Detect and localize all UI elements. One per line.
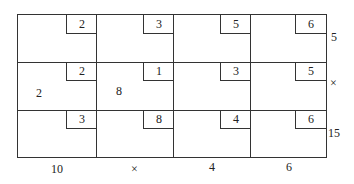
cost-box: 3 (143, 15, 174, 34)
cost-box: 6 (295, 110, 326, 129)
cell-r3-c3: 4 (173, 110, 251, 158)
cell-r1-c1: 2 (18, 15, 97, 63)
demand-col-1: 10 (51, 162, 63, 177)
cell-r3-c4: 6 (250, 110, 326, 158)
cell-r2-c2: 1 8 (96, 62, 174, 111)
demand-col-4: 6 (286, 160, 292, 175)
cell-r2-c4: 5 (250, 62, 326, 111)
supply-row-2: × (330, 76, 337, 91)
allocation-value: 2 (36, 86, 42, 101)
cost-box: 6 (295, 15, 326, 34)
cost-box: 5 (220, 15, 251, 34)
supply-row-1: 5 (331, 30, 337, 45)
demand-col-3: 4 (209, 160, 215, 175)
cell-r3-c1: 3 (18, 110, 97, 158)
cost-box: 3 (66, 110, 97, 129)
cost-box: 2 (66, 15, 97, 34)
demand-col-2: × (131, 162, 138, 177)
allocation-value: 8 (116, 84, 122, 99)
transportation-table: 2 3 5 6 2 2 1 8 3 5 3 8 4 6 (17, 14, 327, 158)
cost-box: 2 (66, 62, 97, 81)
cell-r2-c3: 3 (173, 62, 251, 111)
cost-box: 1 (143, 62, 174, 81)
cost-box: 8 (143, 110, 174, 129)
cell-r3-c2: 8 (96, 110, 174, 158)
cost-box: 3 (220, 62, 251, 81)
supply-row-3: 15 (328, 126, 340, 141)
cell-r1-c3: 5 (173, 15, 251, 63)
cost-box: 4 (220, 110, 251, 129)
cell-r2-c1: 2 2 (18, 62, 97, 111)
cost-box: 5 (295, 62, 326, 81)
cell-r1-c2: 3 (96, 15, 174, 63)
cell-r1-c4: 6 (250, 15, 326, 63)
